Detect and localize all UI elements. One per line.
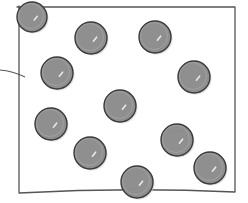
sphere <box>104 90 138 124</box>
sphere <box>74 137 108 171</box>
particle-box-diagram <box>0 0 248 203</box>
sphere <box>178 61 212 95</box>
lead-line <box>0 70 25 77</box>
sphere <box>121 166 155 200</box>
sphere <box>194 152 228 186</box>
sphere <box>139 21 173 55</box>
sphere <box>17 2 49 34</box>
sphere <box>41 57 75 91</box>
lead-line-path <box>0 70 25 77</box>
sphere <box>35 108 69 142</box>
sphere <box>161 124 195 158</box>
spheres-group <box>17 2 228 200</box>
sphere <box>75 22 109 56</box>
